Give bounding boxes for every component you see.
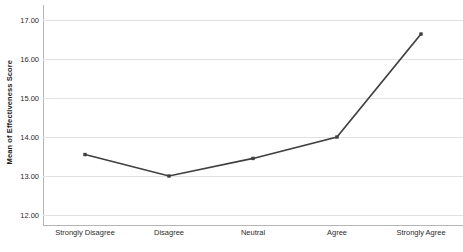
series-line (43, 5, 463, 225)
y-tick-label: 17.00 (20, 16, 39, 25)
y-axis-title: Mean of Effectiveness Score (0, 0, 18, 225)
y-tick-label: 13.00 (20, 172, 39, 181)
y-tick-label: 15.00 (20, 94, 39, 103)
x-tick-label: Strongly Agree (396, 228, 445, 237)
x-axis-tick-labels: Strongly DisagreeDisagreeNeutralAgreeStr… (43, 228, 463, 248)
x-tick-label: Agree (327, 228, 347, 237)
series-polyline (85, 34, 421, 176)
data-point-marker (419, 32, 422, 35)
data-point-marker (335, 135, 338, 138)
y-tick-label: 16.00 (20, 55, 39, 64)
data-point-marker (167, 174, 170, 177)
x-tick-label: Neutral (241, 228, 265, 237)
x-tick-label: Strongly Disagree (55, 228, 115, 237)
data-point-marker (251, 157, 254, 160)
x-axis-line (43, 225, 463, 226)
y-tick-label: 12.00 (20, 211, 39, 220)
plot-area: 12.0013.0014.0015.0016.0017.00 (43, 5, 463, 225)
y-tick-label: 14.00 (20, 133, 39, 142)
y-axis-title-label: Mean of Effectiveness Score (5, 60, 14, 164)
x-tick-label: Disagree (154, 228, 184, 237)
line-chart: Mean of Effectiveness Score 12.0013.0014… (0, 0, 463, 252)
data-point-marker (83, 153, 86, 156)
